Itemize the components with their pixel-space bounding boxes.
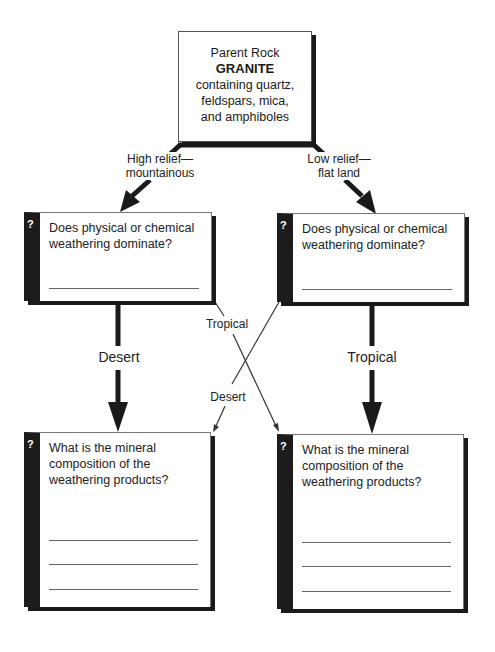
desert-label-left: Desert [94, 350, 144, 364]
parent-rock-desc-line: containing quartz, [179, 77, 311, 93]
question-text: Does physical or chemical weathering dom… [49, 220, 209, 252]
answer-line[interactable] [302, 566, 451, 567]
high-relief-label: High relief— mountainous [120, 152, 200, 180]
question-text: What is the mineral composition of the w… [302, 442, 452, 490]
answer-line[interactable] [302, 542, 451, 543]
question-mark-icon: ? [27, 438, 34, 450]
answer-line[interactable] [302, 289, 452, 290]
question-box-bottom-left: ? What is the mineral composition of the… [24, 432, 211, 607]
answer-line[interactable] [302, 591, 451, 592]
tropical-label-right: Tropical [342, 350, 402, 364]
question-text: Does physical or chemical weathering dom… [302, 221, 462, 253]
question-text: What is the mineral composition of the w… [49, 440, 199, 488]
parent-rock-name: GRANITE [179, 61, 311, 77]
parent-rock-desc-line: feldspars, mica, [179, 93, 311, 109]
desert-cross-label: Desert [208, 390, 248, 404]
question-mark-icon: ? [280, 440, 287, 452]
tropical-cross-label: Tropical [204, 317, 250, 331]
question-mark-icon: ? [27, 218, 34, 230]
answer-line[interactable] [49, 564, 198, 565]
parent-rock-desc-line: and amphiboles [179, 109, 311, 125]
high-relief-line2: mountainous [120, 166, 200, 180]
low-relief-line2: flat land [302, 166, 376, 180]
high-relief-line1: High relief— [120, 152, 200, 166]
answer-line[interactable] [49, 288, 199, 289]
question-box-bottom-right: ? What is the mineral composition of the… [277, 434, 464, 609]
low-relief-label: Low relief— flat land [302, 152, 376, 180]
answer-line[interactable] [49, 540, 198, 541]
question-box-top-right: ? Does physical or chemical weathering d… [277, 213, 465, 302]
question-mark-icon: ? [280, 219, 287, 231]
answer-line[interactable] [49, 589, 198, 590]
low-relief-line1: Low relief— [302, 152, 376, 166]
question-box-top-left: ? Does physical or chemical weathering d… [24, 212, 212, 301]
parent-rock-heading: Parent Rock [179, 45, 311, 61]
parent-rock-box: Parent Rock GRANITE containing quartz, f… [178, 31, 312, 142]
